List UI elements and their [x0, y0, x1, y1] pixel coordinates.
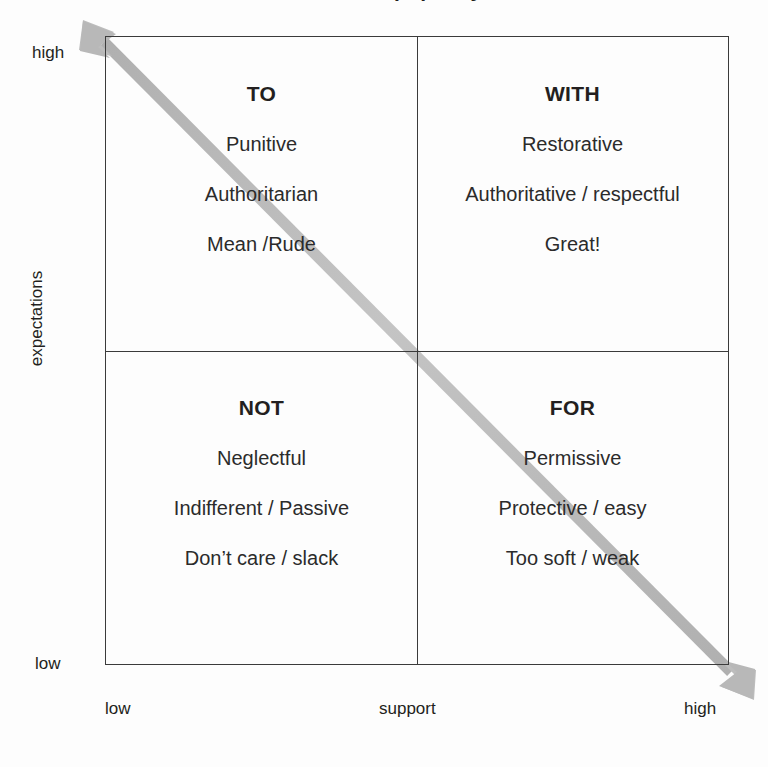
social-discipline-window-figure: relationship quality high low expectatio…: [0, 0, 768, 767]
quadrant-not: NOT Neglectful Indifferent / Passive Don…: [106, 351, 417, 665]
quadrant-not-title: NOT: [239, 397, 285, 418]
figure-title-cutoff: relationship quality: [0, 0, 768, 4]
y-axis-title: expectations: [28, 259, 45, 379]
quadrant-matrix: TO Punitive Authoritarian Mean /Rude WIT…: [105, 36, 729, 665]
quadrant-not-line-3: Don’t care / slack: [185, 548, 338, 568]
quadrant-not-line-2: Indifferent / Passive: [174, 498, 349, 518]
quadrant-with-line-1: Restorative: [522, 134, 623, 154]
quadrant-to-line-2: Authoritarian: [205, 184, 318, 204]
quadrant-with: WITH Restorative Authoritative / respect…: [417, 37, 728, 351]
quadrant-for-title: FOR: [550, 397, 596, 418]
quadrant-to-line-1: Punitive: [226, 134, 297, 154]
y-axis-low-label: low: [35, 655, 61, 672]
quadrant-with-line-2: Authoritative / respectful: [465, 184, 680, 204]
quadrant-for-line-1: Permissive: [524, 448, 622, 468]
quadrant-with-line-3: Great!: [545, 234, 601, 254]
quadrant-for-line-3: Too soft / weak: [506, 548, 639, 568]
quadrant-to-title: TO: [247, 83, 277, 104]
quadrant-to-line-3: Mean /Rude: [207, 234, 316, 254]
quadrant-to: TO Punitive Authoritarian Mean /Rude: [106, 37, 417, 351]
quadrant-for-line-2: Protective / easy: [499, 498, 647, 518]
quadrant-with-title: WITH: [545, 83, 600, 104]
x-axis-low-label: low: [105, 700, 131, 717]
y-axis-high-label: high: [32, 44, 64, 61]
quadrant-for: FOR Permissive Protective / easy Too sof…: [417, 351, 728, 665]
x-axis-high-label: high: [684, 700, 716, 717]
quadrant-not-line-1: Neglectful: [217, 448, 306, 468]
x-axis-title: support: [379, 700, 436, 717]
